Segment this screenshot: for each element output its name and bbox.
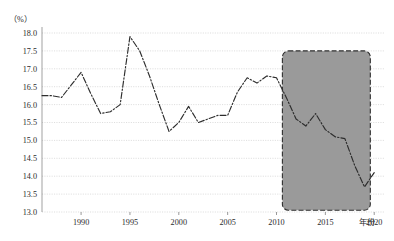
y-axis-title: （%）: [9, 15, 32, 24]
y-tick-label-14.5: 14.5: [23, 154, 37, 163]
x-tick-label-1990: 1990: [73, 218, 89, 227]
x-tick-label-2010: 2010: [268, 218, 284, 227]
y-tick-label-15.0: 15.0: [23, 136, 37, 145]
x-tick-label-1995: 1995: [122, 218, 138, 227]
x-axis-title: 年份: [359, 217, 375, 227]
y-tick-labels-group: 18.017.517.016.516.015.515.014.514.013.5…: [23, 29, 37, 217]
y-tick-label-16.5: 16.5: [23, 83, 37, 92]
y-tick-label-13.0: 13.0: [23, 208, 37, 217]
x-tick-label-2005: 2005: [219, 218, 235, 227]
y-tick-label-17.0: 17.0: [23, 65, 37, 74]
y-tick-label-16.0: 16.0: [23, 101, 37, 110]
y-tick-label-14.0: 14.0: [23, 172, 37, 181]
chart-container: 18.017.517.016.516.015.515.014.514.013.5…: [0, 0, 394, 241]
x-tick-label-2015: 2015: [317, 218, 333, 227]
line-chart: 18.017.517.016.516.015.515.014.514.013.5…: [0, 0, 394, 241]
x-tick-labels-group: 1990199520002005201020152020: [73, 218, 383, 227]
x-tick-label-2000: 2000: [171, 218, 187, 227]
y-tick-label-17.5: 17.5: [23, 47, 37, 56]
y-tick-label-15.5: 15.5: [23, 118, 37, 127]
y-tick-label-18.0: 18.0: [23, 29, 37, 38]
y-tick-label-13.5: 13.5: [23, 190, 37, 199]
